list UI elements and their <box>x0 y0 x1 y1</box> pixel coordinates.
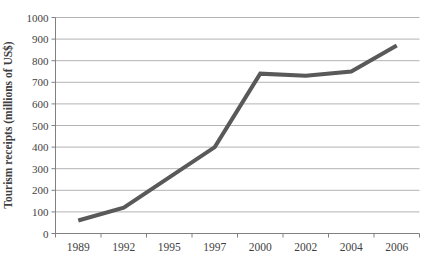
y-tick-label: 400 <box>32 141 49 153</box>
x-tick-label: 2006 <box>385 241 408 253</box>
tourism-receipts-line-chart: 01002003004005006007008009001000 1989199… <box>0 0 428 261</box>
y-tick-label: 600 <box>32 98 49 110</box>
y-tick-label: 800 <box>32 55 49 67</box>
x-tick-label: 2000 <box>249 241 272 253</box>
y-tick-label: 500 <box>32 120 49 132</box>
y-tick-label: 900 <box>32 33 49 45</box>
chart-container: 01002003004005006007008009001000 1989199… <box>0 0 428 261</box>
gridlines <box>56 18 420 212</box>
y-tick-label: 200 <box>32 184 49 196</box>
x-tick-label: 2004 <box>340 241 363 253</box>
y-tick-label: 300 <box>32 163 49 175</box>
y-axis-tick-labels: 01002003004005006007008009001000 <box>27 12 50 240</box>
y-tick-label: 0 <box>43 228 49 240</box>
x-tick-label: 1989 <box>67 241 90 253</box>
x-tick-label: 1995 <box>158 241 181 253</box>
axis-ticks <box>52 18 420 238</box>
x-tick-label: 2002 <box>294 241 317 253</box>
y-tick-label: 100 <box>32 206 49 218</box>
y-tick-label: 1000 <box>27 12 50 24</box>
tourism-receipts-line <box>78 46 397 221</box>
x-axis-tick-labels: 19891992199519972000200220042006 <box>67 241 409 253</box>
x-tick-label: 1997 <box>203 241 226 253</box>
y-tick-label: 700 <box>32 76 49 88</box>
x-tick-label: 1992 <box>112 241 135 253</box>
y-axis-title: Tourism receipts (millions of US$) <box>2 41 15 209</box>
